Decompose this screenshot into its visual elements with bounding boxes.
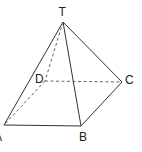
edge-BC	[81, 82, 122, 126]
vertex-label-C: C	[125, 73, 134, 87]
vertex-label-D: D	[35, 72, 44, 86]
edge-TD	[45, 22, 63, 81]
edge-DA	[4, 81, 45, 125]
edge-TA	[4, 22, 63, 125]
vertex-label-A: A	[0, 130, 2, 144]
vertex-label-B: B	[79, 130, 87, 144]
visible-edges	[4, 22, 122, 126]
edge-DC	[45, 81, 122, 82]
hidden-edges	[4, 22, 122, 125]
vertex-label-T: T	[59, 5, 67, 19]
pyramid-diagram: T D C A B	[0, 0, 142, 152]
edge-AB	[4, 125, 81, 126]
